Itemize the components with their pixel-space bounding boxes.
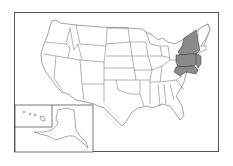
state-new-jersey: [196, 54, 201, 68]
state-pennsylvania: [176, 54, 198, 67]
inset-group: [15, 105, 93, 152]
us-map: [0, 0, 233, 166]
new-england: [198, 24, 210, 52]
